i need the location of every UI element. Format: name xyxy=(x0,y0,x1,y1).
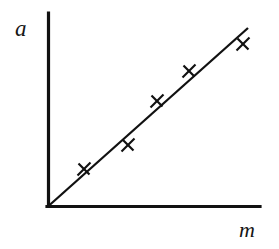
figure-root: a m xyxy=(0,0,279,249)
fit-line-group xyxy=(49,28,249,206)
data-points-group xyxy=(78,38,250,176)
x-axis-label: m xyxy=(239,219,255,241)
data-point-marker-2 xyxy=(122,139,135,152)
data-point-marker-3 xyxy=(151,95,164,108)
plot-canvas xyxy=(0,0,279,249)
data-point-marker-4 xyxy=(183,65,196,78)
y-axis-label: a xyxy=(15,17,27,40)
best-fit-line xyxy=(49,28,249,206)
data-point-marker-5 xyxy=(237,38,250,51)
